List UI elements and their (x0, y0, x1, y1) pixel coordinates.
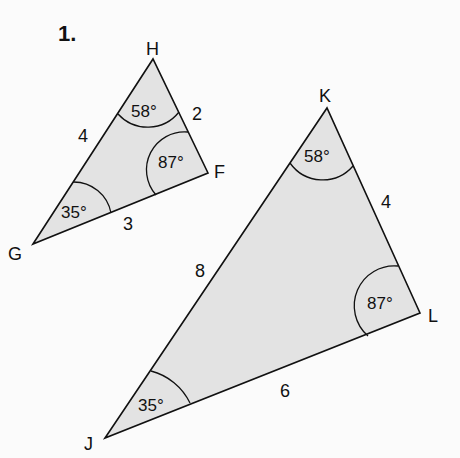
angle-label-f: 87° (158, 153, 184, 172)
vertex-label-g: G (8, 244, 22, 264)
side-label-jk: 8 (195, 261, 205, 281)
angle-label-l: 87° (367, 294, 393, 313)
side-label-jl: 6 (280, 381, 290, 401)
angle-label-h: 58° (131, 102, 157, 121)
vertex-label-k: K (319, 86, 331, 106)
vertex-label-j: J (84, 434, 93, 454)
vertex-label-l: L (428, 306, 438, 326)
problem-number: 1. (58, 21, 76, 46)
angle-label-j: 35° (138, 396, 164, 415)
side-label-kl: 4 (381, 192, 391, 212)
triangle-ghf: 58° 87° 35° H F G 4 2 3 (8, 39, 225, 264)
angle-label-k: 58° (304, 147, 330, 166)
diagram-canvas: 1. 58° 87° 35° H F G 4 2 3 58° 87° 35° K… (0, 0, 460, 458)
side-label-hf: 2 (192, 104, 202, 124)
vertex-label-f: F (214, 162, 225, 182)
vertex-label-h: H (146, 39, 159, 59)
triangle-ghf-shape (33, 59, 208, 244)
side-label-gf: 3 (123, 214, 133, 234)
side-label-gh: 4 (78, 126, 88, 146)
angle-label-g: 35° (61, 203, 87, 222)
